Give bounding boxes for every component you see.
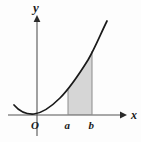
- tick-label-b: b: [89, 119, 95, 131]
- x-axis-arrow-icon: [120, 112, 127, 119]
- x-axis-label: x: [130, 108, 137, 122]
- tick-label-a: a: [65, 119, 71, 131]
- y-axis-arrow-icon: [34, 15, 41, 22]
- integral-area-figure: y x O a b: [0, 0, 141, 142]
- figure-canvas: y x O a b: [0, 0, 141, 142]
- origin-label: O: [31, 119, 39, 131]
- function-curve: [14, 21, 107, 114]
- y-axis-label: y: [31, 0, 39, 15]
